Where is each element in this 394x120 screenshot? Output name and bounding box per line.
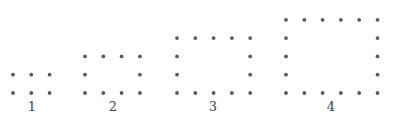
dot — [376, 36, 380, 40]
dot — [120, 91, 124, 95]
dot — [29, 73, 33, 77]
dot — [83, 73, 87, 77]
dot — [175, 36, 179, 40]
dot — [357, 18, 361, 22]
dot — [101, 91, 105, 95]
figure-1: 1 — [11, 73, 51, 114]
dot — [212, 91, 216, 95]
dot — [193, 36, 197, 40]
dot — [284, 73, 288, 77]
dot — [101, 55, 105, 59]
dot — [302, 91, 306, 95]
dot — [138, 55, 142, 59]
dot — [248, 36, 252, 40]
dot — [357, 91, 361, 95]
dot — [284, 36, 288, 40]
dot — [376, 18, 380, 22]
dot — [138, 91, 142, 95]
dot — [11, 73, 15, 77]
dot — [284, 18, 288, 22]
dot — [212, 36, 216, 40]
dot — [248, 55, 252, 59]
dot — [339, 18, 343, 22]
figure-label: 3 — [209, 99, 217, 114]
dot — [230, 91, 234, 95]
dot-pattern-diagram: 1 2 3 4 — [0, 0, 394, 120]
dot — [230, 36, 234, 40]
figure-3: 3 — [175, 36, 252, 114]
figure-label: 2 — [109, 99, 117, 114]
dot — [376, 55, 380, 59]
dot — [302, 18, 306, 22]
figure-4: 4 — [284, 18, 379, 114]
dot — [48, 91, 52, 95]
dot — [321, 18, 325, 22]
dot — [248, 91, 252, 95]
dot — [248, 73, 252, 77]
dot — [120, 55, 124, 59]
dot — [138, 73, 142, 77]
dot — [11, 91, 15, 95]
dot — [175, 91, 179, 95]
figure-2: 2 — [83, 55, 142, 115]
dot — [376, 91, 380, 95]
dot — [175, 55, 179, 59]
dot — [339, 91, 343, 95]
dot — [175, 73, 179, 77]
dot — [284, 91, 288, 95]
dot — [83, 91, 87, 95]
figure-label: 4 — [327, 99, 335, 114]
dot — [48, 73, 52, 77]
dot — [284, 55, 288, 59]
dot — [376, 73, 380, 77]
figure-label: 1 — [28, 99, 36, 114]
dot — [193, 91, 197, 95]
dot — [83, 55, 87, 59]
dot — [321, 91, 325, 95]
dot — [29, 91, 33, 95]
